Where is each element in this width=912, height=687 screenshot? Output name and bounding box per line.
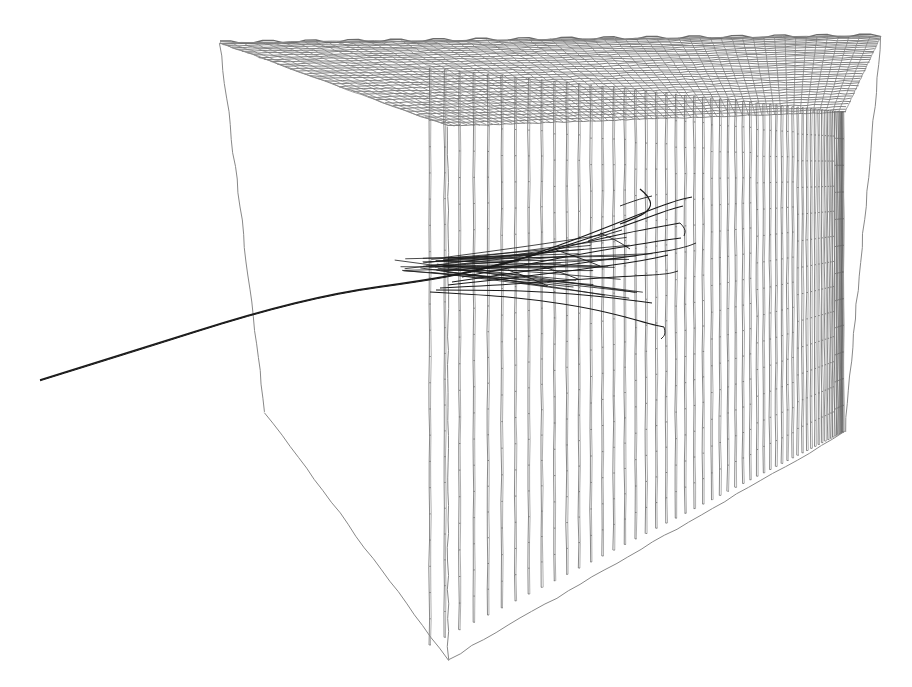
- detector-event-canvas[interactable]: [0, 0, 912, 687]
- event-display-root: 3D Detector Event Display Particle showe…: [0, 0, 912, 687]
